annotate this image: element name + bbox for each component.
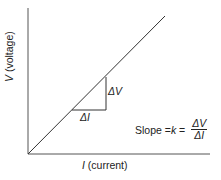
x-axis-text: (current) bbox=[85, 159, 128, 171]
y-axis-label: V (voltage) bbox=[3, 31, 15, 82]
delta-i-label: ΔI bbox=[80, 111, 90, 123]
delta-v-label: ΔV bbox=[108, 85, 122, 97]
slope-formula: Slope = k = ΔV ΔI bbox=[135, 118, 207, 141]
fraction-denominator: ΔI bbox=[194, 130, 204, 141]
slope-equals: = bbox=[176, 124, 188, 136]
x-axis-label: I (current) bbox=[82, 159, 128, 171]
y-axis-variable: V bbox=[3, 75, 15, 82]
slope-prefix: Slope = bbox=[135, 124, 171, 136]
slope-fraction: ΔV ΔI bbox=[191, 118, 207, 141]
y-axis-text: (voltage) bbox=[3, 31, 15, 75]
